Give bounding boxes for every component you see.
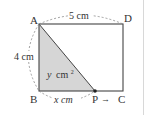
vertex-label-a: A (30, 14, 38, 26)
vertex-label-c: C (118, 93, 125, 105)
diagram-canvas: A B C D P → 5 cm 4 cm x cm y cm 2 (0, 0, 149, 115)
top-dimension-label: 5 cm (69, 10, 89, 21)
bottom-dimension-label: x cm (53, 94, 73, 105)
left-dimension-label: 4 cm (14, 51, 34, 62)
geometry-diagram: A B C D P → 5 cm 4 cm x cm y cm 2 (0, 0, 149, 115)
direction-arrow-icon: → (101, 94, 110, 104)
area-unit: cm (56, 69, 68, 80)
area-label: y cm 2 (46, 69, 74, 80)
area-variable: y (46, 69, 52, 80)
vertex-label-d: D (124, 12, 132, 24)
point-label-p: P (92, 93, 98, 105)
vertex-label-b: B (30, 93, 37, 105)
page-divider-line (143, 0, 144, 115)
area-exponent: 2 (71, 69, 74, 75)
